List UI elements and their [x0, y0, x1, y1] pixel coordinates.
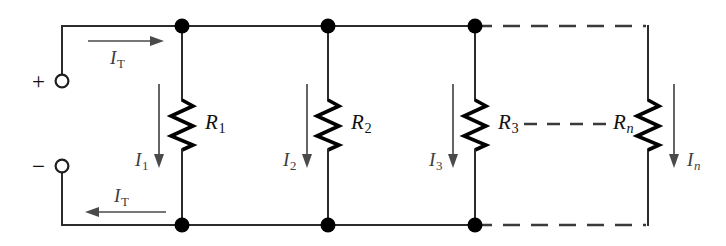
- current-label-In-subscript: n: [693, 158, 700, 173]
- current-label-I2-subscript: 2: [289, 158, 296, 173]
- positive-sign-label: +: [32, 70, 45, 93]
- current-arrow-I2-head: [302, 154, 312, 168]
- resistor-label-R3: R3: [498, 112, 519, 135]
- resistor-symbol-R1: [171, 100, 193, 150]
- current-arrow-In-head: [669, 154, 679, 168]
- current-label-IT-bottom: IT: [114, 186, 129, 209]
- resistor-label-R1-symbol: R: [205, 110, 218, 134]
- resistor-label-R3-symbol: R: [498, 110, 511, 134]
- resistor-label-R1-subscript: 1: [218, 120, 226, 136]
- resistor-symbol-Rn: [637, 100, 659, 150]
- current-label-I2: I2: [283, 150, 296, 173]
- current-label-In: In: [687, 150, 700, 173]
- parallel-circuit-figure: + − R1 R2 R3 Rn IT IT I1 I2 I3 In: [0, 0, 726, 246]
- resistor-label-R1: R1: [205, 112, 226, 135]
- resistor-label-R2: R2: [351, 112, 372, 135]
- current-arrow-I3-head: [448, 154, 458, 168]
- current-label-IT-top-subscript: T: [116, 56, 124, 71]
- positive-terminal-ring: [56, 75, 69, 88]
- resistor-label-Rn-subscript: n: [626, 120, 634, 136]
- node-dot-bottom-2: [321, 218, 336, 233]
- resistor-label-R3-subscript: 3: [511, 120, 519, 136]
- negative-terminal-ring: [56, 160, 69, 173]
- node-dot-top-2: [321, 19, 336, 34]
- current-label-I1-subscript: 1: [141, 158, 148, 173]
- resistor-symbol-R3: [464, 100, 486, 150]
- current-label-I3: I3: [429, 150, 442, 173]
- resistor-label-R2-subscript: 2: [364, 120, 372, 136]
- current-label-IT-bottom-subscript: T: [120, 194, 128, 209]
- node-dot-bottom-1: [175, 218, 190, 233]
- current-arrow-IT-top-head: [150, 36, 164, 46]
- current-label-I1: I1: [135, 150, 148, 173]
- node-dot-top-1: [175, 19, 190, 34]
- current-label-I3-subscript: 3: [435, 158, 442, 173]
- current-arrow-IT-bottom-head: [85, 207, 99, 217]
- resistor-label-Rn: Rn: [613, 112, 634, 135]
- resistor-label-R2-symbol: R: [351, 110, 364, 134]
- resistor-symbol-R2: [317, 100, 339, 150]
- resistor-label-Rn-symbol: R: [613, 110, 626, 134]
- current-label-IT-top: IT: [110, 48, 125, 71]
- negative-sign-label: −: [32, 155, 45, 178]
- node-dot-bottom-3: [468, 218, 483, 233]
- node-dot-top-3: [468, 19, 483, 34]
- current-arrow-I1-head: [154, 154, 164, 168]
